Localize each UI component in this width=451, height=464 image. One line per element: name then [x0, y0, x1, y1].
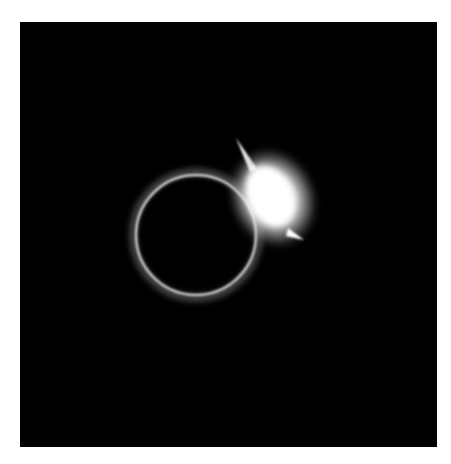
eclipse-illustration [0, 0, 451, 464]
